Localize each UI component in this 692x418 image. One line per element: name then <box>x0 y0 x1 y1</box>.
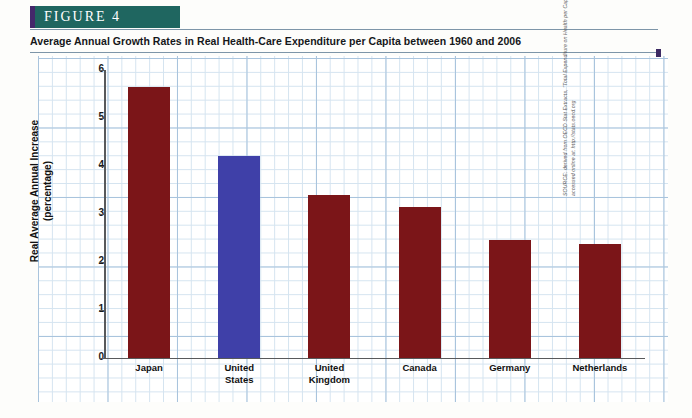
y-axis-title: Real Average Annual Increase(percentage) <box>28 99 54 284</box>
y-tick-mark <box>99 358 104 359</box>
bar[interactable] <box>128 87 170 358</box>
chart-plot-area: 0123456 Real Average Annual Increase(per… <box>0 0 692 418</box>
y-tick-label: 6 <box>90 63 104 74</box>
x-axis-category-label: United States <box>193 362 285 385</box>
bar-group: Japan <box>104 70 194 358</box>
bar-group: United States <box>194 70 284 358</box>
y-tick-mark <box>99 310 104 311</box>
y-tick-mark <box>99 262 104 263</box>
y-tick-mark <box>99 166 104 167</box>
x-axis-category-label: Netherlands <box>554 362 646 374</box>
y-tick-label: 3 <box>90 207 104 218</box>
y-axis-title-line: Real Average Annual Increase <box>29 120 40 262</box>
bar[interactable] <box>579 244 621 358</box>
y-axis-ticks: 0123456 <box>80 0 104 418</box>
bar[interactable] <box>218 156 260 358</box>
bar[interactable] <box>308 195 350 358</box>
y-tick-label: 0 <box>90 351 104 362</box>
x-axis-category-label: United Kingdom <box>283 362 375 385</box>
y-tick-label: 4 <box>90 159 104 170</box>
y-tick-mark <box>99 214 104 215</box>
source-note: SOURCE: derived from OECD Stat Extracts,… <box>562 0 577 196</box>
y-tick-mark <box>99 118 104 119</box>
y-tick-label: 1 <box>90 303 104 314</box>
y-tick-label: 2 <box>90 255 104 266</box>
x-axis-category-label: Japan <box>103 362 195 374</box>
y-axis-title-line: (percentage) <box>42 161 53 221</box>
y-tick-label: 5 <box>90 111 104 122</box>
bar-group: Canada <box>375 70 465 358</box>
bar-group: Germany <box>465 70 555 358</box>
bar[interactable] <box>399 207 441 358</box>
x-axis-category-label: Canada <box>374 362 466 374</box>
x-axis-category-label: Germany <box>464 362 556 374</box>
y-tick-mark <box>99 70 104 71</box>
bar[interactable] <box>489 240 531 358</box>
bar-group: United Kingdom <box>284 70 374 358</box>
